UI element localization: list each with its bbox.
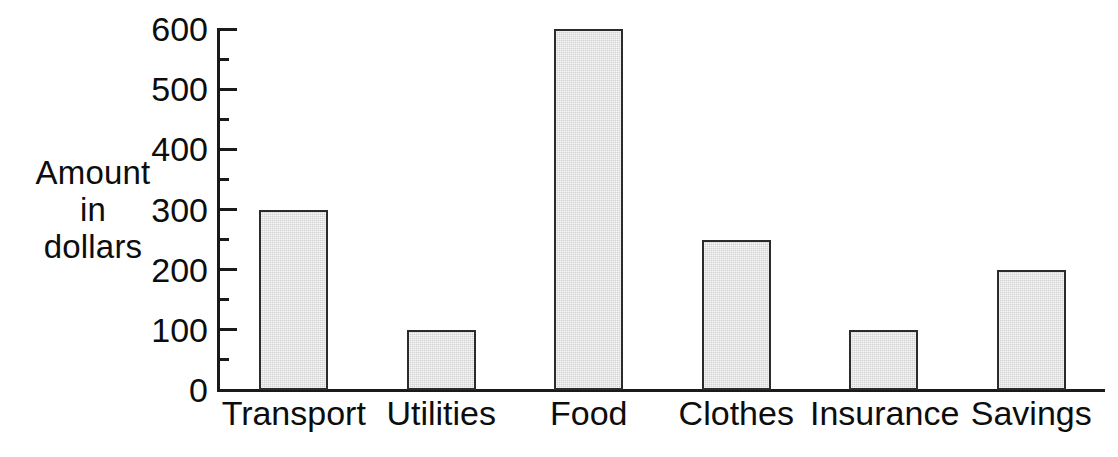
bar	[259, 210, 328, 391]
y-axis-tick-label: 300	[38, 193, 208, 227]
x-axis-tick-label: Insurance	[810, 396, 958, 430]
x-axis-tick-label: Savings	[958, 396, 1106, 430]
y-axis-tick-label: 100	[38, 313, 208, 347]
x-axis-tick-label: Food	[515, 396, 663, 430]
y-axis-tick-label: 400	[38, 132, 208, 166]
y-axis-tick-label: 500	[38, 72, 208, 106]
bar	[997, 270, 1066, 390]
y-axis-tick-labels: 0100200300400500600	[38, 0, 208, 457]
bar-chart: Amount in dollars 0100200300400500600 Tr…	[0, 0, 1118, 457]
y-axis-tick-label: 600	[38, 12, 208, 46]
bar	[702, 240, 771, 390]
plot-area	[220, 29, 1105, 390]
x-axis-tick-label: Transport	[220, 396, 368, 430]
bar	[407, 330, 476, 390]
x-axis-tick-label: Utilities	[368, 396, 516, 430]
bar	[554, 29, 623, 390]
y-axis-tick-label: 200	[38, 253, 208, 287]
x-axis-tick-labels: TransportUtilitiesFoodClothesInsuranceSa…	[220, 396, 1105, 451]
y-axis-tick-label: 0	[38, 373, 208, 407]
x-axis-tick-label: Clothes	[663, 396, 811, 430]
bar	[849, 330, 918, 390]
